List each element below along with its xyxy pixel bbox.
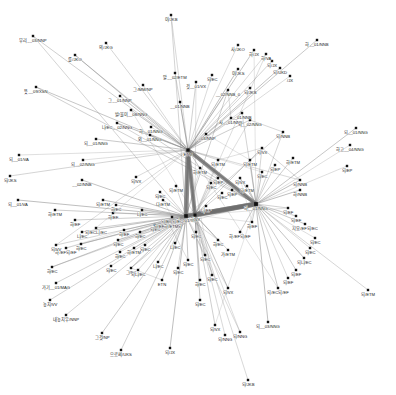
graph-node[interactable] [314,237,316,239]
graph-node[interactable] [55,282,57,284]
graph-node[interactable] [249,87,251,89]
graph-node[interactable] [55,244,57,246]
graph-node[interactable] [241,112,243,114]
graph-node[interactable] [246,185,248,187]
graph-node[interactable] [303,257,305,259]
graph-node[interactable] [80,243,82,245]
graph-node[interactable] [162,199,164,201]
graph-node[interactable] [309,247,311,249]
graph-node[interactable] [287,277,289,279]
graph-node[interactable] [239,177,241,179]
graph-node[interactable] [239,331,241,333]
graph-node[interactable] [187,259,189,261]
graph-node[interactable] [316,39,318,41]
graph-node[interactable] [74,54,76,56]
graph-node[interactable] [195,231,197,233]
graph-node[interactable] [65,247,67,249]
graph-node[interactable] [205,133,207,135]
graph-node[interactable] [159,191,161,193]
graph-node[interactable] [110,265,112,267]
graph-node[interactable] [130,267,132,269]
graph-node[interactable] [51,266,53,268]
graph-node[interactable] [304,223,306,225]
graph-node[interactable] [9,175,11,177]
graph-node[interactable] [81,179,83,181]
graph-node[interactable] [237,68,239,70]
graph-node[interactable] [171,216,173,218]
graph-node[interactable] [247,379,249,381]
graph-node[interactable] [214,324,216,326]
graph-node[interactable] [112,212,114,214]
graph-node[interactable] [217,159,219,161]
graph-node[interactable] [211,74,213,76]
graph-node[interactable] [54,209,56,211]
graph-node[interactable] [174,72,176,74]
graph-node[interactable] [175,185,177,187]
graph-node[interactable] [174,242,176,244]
graph-node[interactable] [299,189,301,191]
graph-node[interactable] [130,109,132,111]
graph-node[interactable] [265,53,267,55]
graph-node[interactable] [199,299,201,301]
graph-node[interactable] [287,207,289,209]
graph-node[interactable] [261,147,263,149]
graph-node[interactable] [211,274,213,276]
graph-node[interactable] [205,205,207,207]
graph-node[interactable] [123,229,125,231]
graph-node[interactable] [117,239,119,241]
graph-node[interactable] [95,227,97,229]
graph-node[interactable] [251,221,253,223]
graph-node[interactable] [367,289,369,291]
graph-node[interactable] [101,332,103,334]
graph-node[interactable] [133,247,135,249]
graph-node[interactable] [35,86,37,88]
graph-node[interactable] [119,251,121,253]
graph-node[interactable] [81,231,83,233]
graph-node[interactable] [227,287,229,289]
graph-node[interactable] [137,269,139,271]
graph-node[interactable] [139,231,141,233]
graph-node[interactable] [115,204,117,206]
graph-node[interactable] [279,67,281,69]
graph-node[interactable] [199,167,201,169]
graph-node[interactable] [157,261,159,263]
graph-node[interactable] [231,189,233,191]
graph-node[interactable] [177,267,179,269]
graph-node[interactable] [161,279,163,281]
graph-node[interactable] [346,165,348,167]
graph-node[interactable] [355,127,357,129]
graph-node[interactable] [237,44,239,46]
graph-node[interactable] [120,349,122,351]
graph-node[interactable] [169,347,171,349]
graph-node[interactable] [277,287,279,289]
graph-node[interactable] [95,138,97,140]
graph-node[interactable] [105,42,107,44]
graph-node[interactable] [204,254,206,256]
graph-node[interactable] [292,157,294,159]
graph-node[interactable] [150,126,152,128]
graph-node[interactable] [135,176,137,178]
graph-node[interactable] [217,177,219,179]
graph-node[interactable] [149,134,151,136]
graph-node[interactable] [102,199,104,201]
graph-node[interactable] [141,209,143,211]
graph-node[interactable] [144,244,146,246]
graph-node[interactable] [179,101,181,103]
graph-node[interactable] [199,279,201,281]
graph-node[interactable] [239,231,241,233]
graph-node[interactable] [65,314,67,316]
graph-node[interactable] [74,219,76,221]
graph-node[interactable] [261,171,263,173]
graph-node[interactable] [227,249,229,251]
graph-node[interactable] [289,75,291,77]
graph-node[interactable] [49,299,51,301]
graph-node[interactable] [17,199,19,201]
graph-node[interactable] [295,269,297,271]
graph-node[interactable] [249,159,251,161]
graph-node[interactable] [253,49,255,51]
graph-node[interactable] [221,192,223,194]
graph-node[interactable] [295,215,297,217]
graph-node[interactable] [116,122,118,124]
graph-node[interactable] [299,179,301,181]
graph-node[interactable] [274,164,276,166]
